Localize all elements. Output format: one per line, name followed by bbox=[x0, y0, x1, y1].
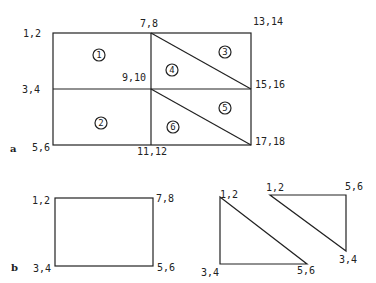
node-label: 1,2 bbox=[32, 195, 50, 206]
node-label: 3,4 bbox=[33, 263, 51, 274]
svg-text:6: 6 bbox=[170, 122, 175, 132]
figure-b-rectangle: 1,2 7,8 b 3,4 5,6 bbox=[11, 193, 175, 274]
svg-text:2: 2 bbox=[98, 118, 103, 128]
node-label: 9,10 bbox=[122, 72, 146, 83]
figure-b-triangle-upper: 1,2 5,6 3,4 bbox=[266, 181, 363, 265]
svg-text:3: 3 bbox=[222, 47, 227, 57]
mesh-diagonal-upper bbox=[151, 33, 251, 89]
node-label: 1,2 bbox=[23, 28, 41, 39]
svg-text:1: 1 bbox=[96, 50, 101, 60]
element-3-marker: 3 bbox=[219, 46, 231, 58]
node-label: 1,2 bbox=[220, 189, 238, 200]
element-2-marker: 2 bbox=[95, 117, 107, 129]
node-label: 3,4 bbox=[22, 84, 40, 95]
element-4-marker: 4 bbox=[166, 64, 178, 76]
element-1-marker: 1 bbox=[93, 49, 105, 61]
figure-tag: a bbox=[10, 143, 17, 154]
node-label: 3,4 bbox=[339, 254, 357, 265]
element-5-marker: 5 bbox=[219, 102, 231, 114]
node-label: 17,18 bbox=[255, 136, 285, 147]
node-label: 5,6 bbox=[345, 181, 363, 192]
node-label: 15,16 bbox=[255, 79, 285, 90]
node-label: 5,6 bbox=[32, 142, 50, 153]
figure-b-triangle-lower: 1,2 3,4 5,6 bbox=[201, 189, 315, 278]
mesh-diagonal-lower bbox=[151, 89, 251, 145]
node-label: 7,8 bbox=[140, 18, 158, 29]
node-label: 5,6 bbox=[157, 262, 175, 273]
element-6-marker: 6 bbox=[167, 121, 179, 133]
node-label: 11,12 bbox=[137, 146, 167, 157]
svg-text:4: 4 bbox=[169, 65, 174, 75]
node-label: 13,14 bbox=[253, 16, 283, 27]
svg-text:5: 5 bbox=[222, 103, 227, 113]
node-label: 7,8 bbox=[156, 193, 174, 204]
figure-tag: b bbox=[11, 262, 18, 273]
node-label: 5,6 bbox=[297, 265, 315, 276]
node-label: 3,4 bbox=[201, 267, 219, 278]
mesh-diagram: 1,2 7,8 13,14 3,4 9,10 15,16 a 5,6 11,12… bbox=[0, 0, 376, 283]
figure-a-mesh: 1,2 7,8 13,14 3,4 9,10 15,16 a 5,6 11,12… bbox=[10, 16, 285, 157]
node-label: 1,2 bbox=[266, 182, 284, 193]
